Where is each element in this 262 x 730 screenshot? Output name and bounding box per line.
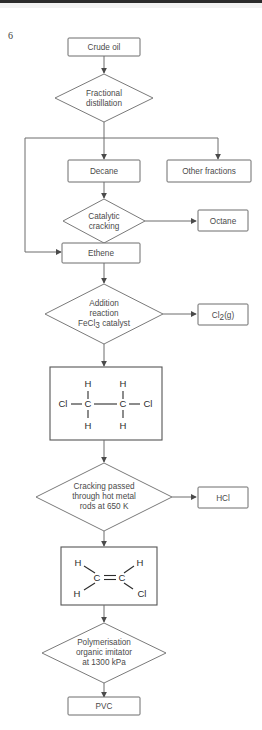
node-catalytic-cracking[interactable] (63, 199, 145, 243)
node-fractional-distillation-line2: distillation (86, 99, 122, 108)
node-catalytic-cracking-line2: cracking (89, 222, 120, 231)
dichloroethane-h-bottom-left: H (85, 420, 92, 431)
node-crude-oil-label: Crude oil (88, 43, 121, 52)
node-pvc-label: PVC (96, 702, 113, 711)
dichloroethane-cl-left: Cl (59, 398, 68, 409)
node-decane-label: Decane (90, 167, 119, 176)
node-ethene-label: Ethene (88, 249, 114, 258)
node-hydrogen-chloride-label: HCl (216, 494, 230, 503)
chloroethene-h-top-left: H (75, 557, 82, 568)
node-other-fractions-label: Other fractions (182, 167, 236, 176)
chlorine-formula-suffix: (g) (224, 311, 234, 320)
dichloroethane-cl-right: Cl (144, 398, 153, 409)
node-addition-reaction-line2: reaction (89, 309, 119, 318)
node-cracking-line3: rods at 650 K (80, 502, 129, 511)
node-catalytic-cracking-line1: Catalytic (88, 212, 119, 221)
fecl-formula-suffix: catalyst (100, 319, 131, 328)
dichloroethane-h-top-left: H (85, 378, 92, 389)
dichloroethane-h-top-right: H (120, 378, 127, 389)
chloroethene-c-left: C (94, 572, 101, 583)
chlorine-formula-prefix: Cl (212, 311, 220, 320)
chloroethene-h-top-right: H (137, 557, 144, 568)
node-octane-label: Octane (210, 217, 237, 226)
process-flowchart: Crude oil Fractional distillation Decane… (0, 0, 262, 730)
node-fractional-distillation-line1: Fractional (86, 89, 122, 98)
fecl-formula-prefix: FeCl (78, 319, 95, 328)
dichloroethane-c-left: C (85, 398, 92, 409)
chloroethene-c-right: C (119, 572, 126, 583)
chloroethene-h-bottom-left: H (74, 588, 81, 599)
node-polymerisation-line1: Polymerisation (77, 638, 131, 647)
node-addition-reaction-line1: Addition (89, 299, 119, 308)
node-cracking-line2: through hot metal (72, 492, 136, 501)
node-cracking-line1: Cracking passed (74, 482, 135, 491)
edge-bus-left-loop-to-ethene (25, 138, 61, 252)
node-polymerisation-line2: organic imitator (76, 648, 132, 657)
worksheet-page: 6 Crude oil Fractional distillation Deca… (0, 0, 262, 730)
node-polymerisation-line3: at 1300 kPa (82, 658, 126, 667)
node-fractional-distillation[interactable] (55, 74, 153, 122)
dichloroethane-c-right: C (120, 398, 127, 409)
dichloroethane-h-bottom-right: H (120, 420, 127, 431)
chloroethene-cl-bottom-right: Cl (138, 588, 147, 599)
